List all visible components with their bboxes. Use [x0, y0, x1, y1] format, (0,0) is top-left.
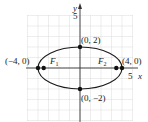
- vertex-bottom: [78, 87, 82, 91]
- point-label-right: (4, 0): [122, 56, 142, 66]
- vertex-left: [36, 66, 40, 70]
- focus-1-label: F1: [49, 56, 59, 67]
- x-tick-label: 5: [128, 71, 133, 81]
- ellipse-graph: y 5 x 5 (0, 2) (0, −2) (−4, 0) (4, 0) F1…: [0, 0, 148, 122]
- x-axis-label: x: [137, 71, 142, 81]
- vertex-right: [120, 66, 124, 70]
- focus-2: [114, 66, 118, 70]
- y-tick-label: 5: [73, 11, 78, 21]
- point-label-bottom: (0, −2): [81, 93, 106, 103]
- point-label-left: (−4, 0): [5, 56, 30, 66]
- vertex-top: [78, 45, 82, 49]
- focus-2-label: F2: [97, 56, 107, 67]
- point-label-top: (0, 2): [81, 35, 101, 45]
- focus-1: [42, 66, 46, 70]
- y-axis-arrow-icon: [78, 3, 82, 9]
